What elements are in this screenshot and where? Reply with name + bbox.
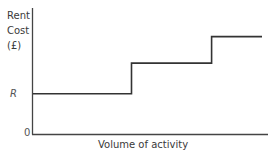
step-cost-line: [33, 37, 262, 94]
chart-plot: [0, 0, 273, 159]
